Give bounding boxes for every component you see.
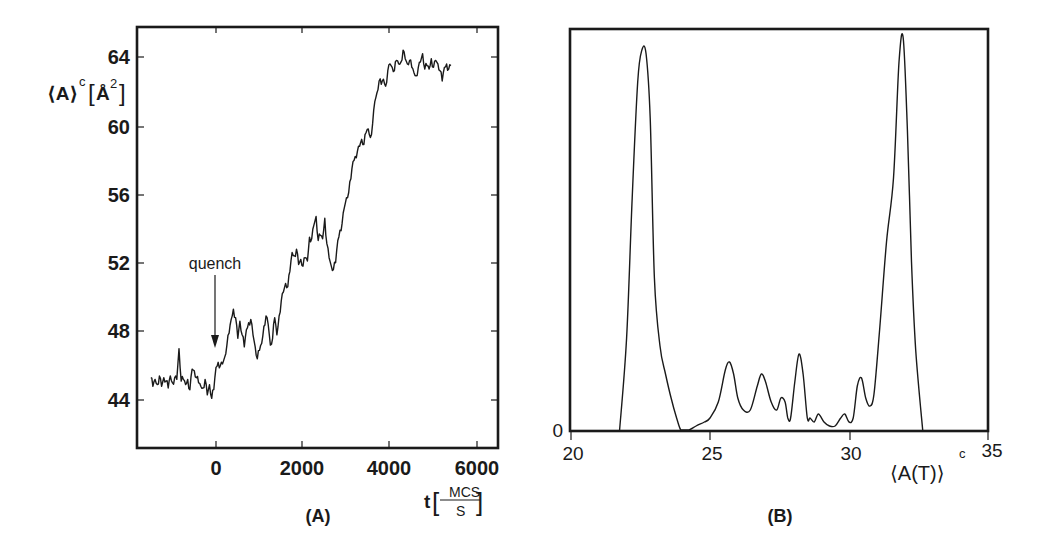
x-tick-label: 2000 [280,457,325,479]
x-axis-label-bracket-close: ] [476,487,483,517]
panel-a-x-tick-labels: 0 2000 4000 6000 [210,457,499,479]
x-tick-label: 35 [981,440,1002,461]
panel-b: 20 25 30 35 0 ⟨A(T)⟩ c (B) [552,29,1002,526]
x-tick-label: 0 [210,457,221,479]
x-tick-label: 25 [701,443,722,464]
y-axis-label-sup: c [79,74,86,89]
x-axis-label-denominator: S [456,503,465,519]
x-tick-label: 4000 [367,457,412,479]
panel-b-x-tick-labels: 20 25 30 35 [562,440,1002,464]
y-tick-label: 52 [108,252,130,274]
y-tick-label: 64 [108,46,131,68]
x-tick-label: 30 [840,443,861,464]
panel-a: 64 60 56 52 48 44 0 2000 4000 6000 ⟨A⟩ c… [47,27,499,526]
quench-arrow-icon [211,335,219,348]
y-axis-label-bracket-open: [ [88,79,95,106]
quench-annotation: quench [189,255,242,272]
x-axis-label-sup: c [959,446,966,461]
panel-b-frame [570,29,988,431]
y-axis-label-main: ⟨A⟩ [47,83,78,104]
x-axis-label-main: ⟨A(T)⟩ [890,462,944,484]
y-tick-label: 60 [108,116,130,138]
panel-b-caption: (B) [768,506,793,526]
panel-b-curve [620,34,923,430]
x-axis-label-bracket-open: [ [432,487,440,517]
panel-a-curve [151,50,451,398]
x-tick-label: 20 [562,443,583,464]
panel-a-x-ticks [216,27,477,448]
panel-a-caption: (A) [306,506,331,526]
x-axis-label-var: t [424,491,431,512]
figure: 64 60 56 52 48 44 0 2000 4000 6000 ⟨A⟩ c… [0,0,1043,545]
panel-b-x-ticks [571,431,988,440]
y-tick-label: 56 [108,184,130,206]
y-axis-label-unit-sup: 2 [110,76,117,91]
panel-a-x-axis-label: t [ MCS S ] [424,484,483,519]
y-axis-label-bracket-close: ] [119,79,126,106]
y-tick-label: 44 [108,389,131,411]
panel-a-y-axis-label: ⟨A⟩ c [ Å 2 ] [47,74,126,106]
y-tick-label-zero: 0 [552,420,563,441]
y-tick-label: 48 [108,320,130,342]
y-axis-label-unit: Å [96,83,110,104]
x-tick-label: 6000 [455,457,500,479]
